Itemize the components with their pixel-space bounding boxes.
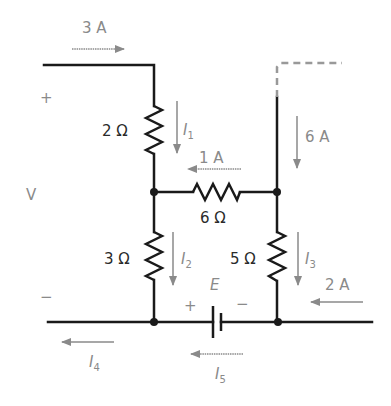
battery-E <box>213 306 221 338</box>
label-battery-plus: + <box>184 297 197 315</box>
label-I4: I4 <box>89 353 100 373</box>
label-battery-E: E <box>210 276 220 294</box>
node-right-bottom <box>274 318 282 326</box>
node-right-mid <box>273 188 281 196</box>
label-5-ohm: 5 Ω <box>230 250 256 268</box>
label-1A: 1 A <box>199 149 224 167</box>
label-source-V: V <box>26 186 37 204</box>
node-left-mid <box>150 188 158 196</box>
label-2-ohm: 2 Ω <box>102 122 128 140</box>
resistor-3-ohm <box>146 232 162 280</box>
resistor-5-ohm <box>269 232 285 281</box>
label-6-ohm: 6 Ω <box>200 209 226 227</box>
label-battery-minus: − <box>236 295 249 313</box>
label-I1: I1 <box>183 121 194 141</box>
label-2A: 2 A <box>325 276 350 294</box>
resistor-2-ohm <box>146 106 162 154</box>
label-source-minus: − <box>40 288 53 306</box>
dashed-external-wire <box>277 63 342 97</box>
label-3-ohm: 3 Ω <box>104 250 130 268</box>
label-I3: I3 <box>305 250 316 270</box>
label-source-plus: + <box>40 89 53 107</box>
resistor-6-ohm <box>193 184 240 200</box>
top-input-wire <box>44 65 154 106</box>
node-left-bottom <box>150 318 158 326</box>
label-I2: I2 <box>181 250 192 270</box>
label-6A: 6 A <box>305 128 330 146</box>
label-I5: I5 <box>215 365 226 385</box>
circuit-diagram: 3 A 1 A 6 A 2 A I1 I2 I3 I4 I5 2 Ω 6 Ω 3… <box>0 0 391 406</box>
label-3A: 3 A <box>82 19 107 37</box>
